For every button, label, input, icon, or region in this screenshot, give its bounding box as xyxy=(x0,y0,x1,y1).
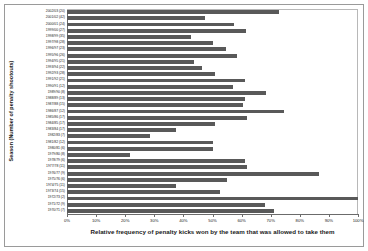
bar-row xyxy=(67,103,358,107)
bar-row xyxy=(67,141,358,145)
y-axis-tick-label: 1995/96 (26) xyxy=(46,54,65,57)
x-axis-tick-label: 60% xyxy=(237,218,245,223)
bar-row xyxy=(67,122,358,126)
bar xyxy=(67,47,226,51)
x-axis-tick-label: 40% xyxy=(179,218,187,223)
y-axis-tick-label: 1973/74 (15) xyxy=(46,190,65,193)
x-axis-tick-label: 30% xyxy=(150,218,158,223)
bar xyxy=(67,110,284,114)
y-axis-tick-label: 1998/99 (35) xyxy=(46,35,65,38)
y-axis-tick-label: 1977/78 (11) xyxy=(46,165,65,168)
bar-row xyxy=(67,97,358,101)
bar xyxy=(67,103,243,107)
y-axis-tick-label: 1981/82 (12) xyxy=(46,141,65,144)
bar xyxy=(67,178,227,182)
bar xyxy=(67,91,266,95)
bar-row xyxy=(67,29,358,33)
bar-row xyxy=(67,41,358,45)
bar xyxy=(67,72,215,76)
x-axis-tick xyxy=(300,214,301,217)
y-axis-tick-label: 1996/97 (23) xyxy=(46,47,65,50)
y-axis-title-container: Season (Number of penalty shootouts) xyxy=(5,8,17,214)
bar xyxy=(67,141,213,145)
y-axis-tick-label: 1994/95 (21) xyxy=(46,60,65,63)
bar xyxy=(67,165,247,169)
bar-row xyxy=(67,159,358,163)
y-axis-tick-label: 1986/87 (12) xyxy=(46,110,65,113)
y-axis-tick-label: 1987/88 (15) xyxy=(46,103,65,106)
bar-row xyxy=(67,16,358,20)
bar-row xyxy=(67,203,358,207)
bar-row xyxy=(67,79,358,83)
bar-row xyxy=(67,91,358,95)
bar-row xyxy=(67,66,358,70)
x-axis-tick xyxy=(271,214,272,217)
bar-row xyxy=(67,60,358,64)
y-axis-tick-label: 1989/90 (8) xyxy=(48,91,65,94)
y-axis-tick-label: 2000/01 (24) xyxy=(46,23,65,26)
x-axis-tick xyxy=(183,214,184,217)
bar-row xyxy=(67,147,358,151)
bar xyxy=(67,122,215,126)
bar xyxy=(67,197,358,201)
bar-row xyxy=(67,128,358,132)
x-axis-tick xyxy=(358,214,359,217)
bar xyxy=(67,159,245,163)
bar xyxy=(67,10,279,14)
y-axis-tick-label: 1984/85 (17) xyxy=(46,122,65,125)
bar xyxy=(67,116,247,120)
x-axis-tick xyxy=(213,214,214,217)
x-axis-tick-label: 80% xyxy=(296,218,304,223)
bar-row xyxy=(67,54,358,58)
x-axis-tick xyxy=(242,214,243,217)
bar xyxy=(67,209,274,213)
x-axis-title: Relative frequency of penalty kicks won … xyxy=(67,228,358,235)
bar-row xyxy=(67,134,358,138)
y-axis-tick-label: 1983/84 (17) xyxy=(46,128,65,131)
y-axis-tick-label: 1993/94 (22) xyxy=(46,66,65,69)
bar xyxy=(67,97,245,101)
bar-row xyxy=(67,116,358,120)
bar xyxy=(67,54,237,58)
bar-row xyxy=(67,190,358,194)
bar xyxy=(67,147,213,151)
x-axis-tick-label: 90% xyxy=(325,218,333,223)
x-axis-tick-label: 50% xyxy=(208,218,216,223)
y-axis-tick-label: 1999/00 (27) xyxy=(46,29,65,32)
y-axis-tick-label: 1990/91 (12) xyxy=(46,85,65,88)
bar-row xyxy=(67,35,358,39)
x-axis-tick-label: 10% xyxy=(92,218,100,223)
y-axis-tick-label: 2002/03 (20) xyxy=(46,10,65,13)
x-axis-tick xyxy=(67,214,68,217)
x-axis-tick-label: 100% xyxy=(353,218,364,223)
bar xyxy=(67,35,191,39)
x-axis-tick xyxy=(96,214,97,217)
bar xyxy=(67,23,234,27)
y-axis-tick-label: 1991/92 (21) xyxy=(46,78,65,81)
y-axis-tick-label: 1980/81 (6) xyxy=(48,147,65,150)
y-axis-tick-label: 1997/98 (28) xyxy=(46,41,65,44)
y-axis-tick-label: 1976/77 (9) xyxy=(48,172,65,175)
bar-row xyxy=(67,197,358,201)
y-axis-tick-label: 1971/72 (9) xyxy=(48,203,65,206)
bar-row xyxy=(67,172,358,176)
y-axis-tick-label: 1978/79 (6) xyxy=(48,159,65,162)
x-axis-tick-label: 70% xyxy=(266,218,274,223)
bar xyxy=(67,172,319,176)
bar-row xyxy=(67,47,358,51)
bar xyxy=(67,184,176,188)
bar xyxy=(67,85,233,89)
bar-row xyxy=(67,153,358,157)
y-axis-title: Season (Number of penalty shootouts) xyxy=(8,61,14,162)
bar-row xyxy=(67,165,358,169)
bar-row xyxy=(67,23,358,27)
x-axis-tick-label: 0% xyxy=(64,218,70,223)
bar-row xyxy=(67,178,358,182)
x-axis-tick xyxy=(329,214,330,217)
y-axis-tick-label: 1985/86 (17) xyxy=(46,116,65,119)
chart-figure: Season (Number of penalty shootouts) 200… xyxy=(0,0,368,251)
y-axis-tick-label: 1972/73 (2) xyxy=(48,196,65,199)
y-axis-tick-label: 1979/80 (8) xyxy=(48,153,65,156)
y-axis-tick-label: 1970/71 (7) xyxy=(48,209,65,212)
x-axis-tick-label: 20% xyxy=(121,218,129,223)
